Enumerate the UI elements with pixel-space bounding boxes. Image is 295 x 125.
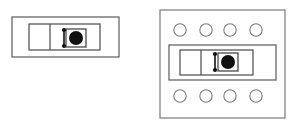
left-figure bbox=[12, 17, 119, 57]
right-figure bbox=[160, 10, 285, 118]
port-circle-top-1 bbox=[174, 24, 186, 36]
port-circle-bottom-3 bbox=[224, 90, 236, 102]
port-circle-top-4 bbox=[250, 24, 262, 36]
left-node-dot-bottom bbox=[62, 44, 66, 48]
right-node-dot-top bbox=[213, 52, 217, 56]
port-circle-bottom-4 bbox=[250, 90, 262, 102]
port-circle-bottom-1 bbox=[174, 90, 186, 102]
port-circle-top-3 bbox=[224, 24, 236, 36]
diagram-svg bbox=[0, 0, 295, 125]
port-circle-bottom-2 bbox=[200, 90, 212, 102]
port-circle-top-2 bbox=[200, 24, 212, 36]
left-node-dot-top bbox=[62, 28, 66, 32]
left-core-disc bbox=[69, 31, 83, 45]
diagram-canvas bbox=[0, 0, 295, 125]
right-node-dot-bottom bbox=[213, 68, 217, 72]
right-core-disc bbox=[221, 55, 235, 69]
